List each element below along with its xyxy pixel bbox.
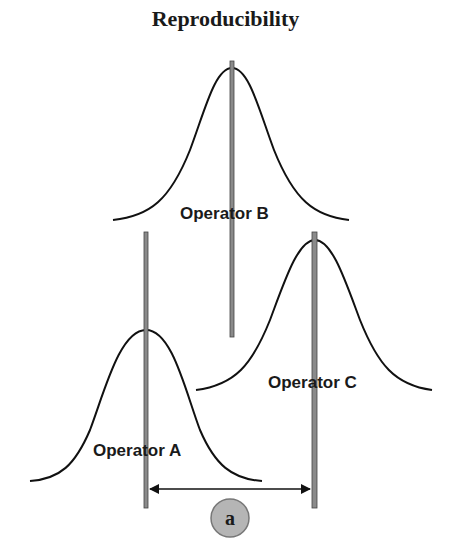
operator-a-mean-line (144, 232, 148, 508)
operator-b-label: Operator B (180, 204, 269, 223)
dimension-badge-label: a (225, 507, 235, 529)
reproducibility-diagram: Operator B Operator C Operator A a (0, 0, 451, 553)
operator-a-distribution: Operator A (30, 232, 262, 508)
dimension-badge: a (211, 499, 249, 537)
operator-c-label: Operator C (268, 373, 357, 392)
operator-a-label: Operator A (93, 441, 181, 460)
operator-b-mean-line (230, 61, 234, 337)
operator-c-mean-line (312, 232, 317, 508)
